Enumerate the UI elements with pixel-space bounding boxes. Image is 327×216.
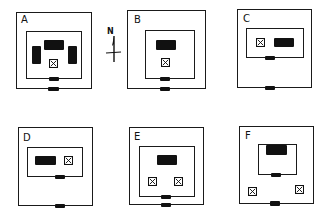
altar-icon-west bbox=[248, 187, 257, 196]
inner-gate bbox=[161, 195, 171, 199]
outer-gate bbox=[160, 87, 170, 91]
building-east bbox=[274, 38, 294, 47]
building-west bbox=[35, 156, 56, 165]
panel-label: F bbox=[245, 131, 251, 141]
outer-gate bbox=[265, 86, 275, 90]
panel-label: B bbox=[134, 15, 141, 25]
building-north bbox=[44, 40, 64, 50]
outer-gate bbox=[270, 201, 280, 206]
temple-plan-diagram: A N B C bbox=[0, 0, 327, 216]
altar-icon bbox=[256, 38, 265, 47]
inner-gate bbox=[55, 175, 65, 179]
outer-gate bbox=[55, 204, 65, 208]
panel-label: A bbox=[21, 15, 28, 25]
inner-gate bbox=[160, 77, 170, 81]
building-east bbox=[68, 46, 77, 64]
inner-gate bbox=[265, 56, 275, 60]
altar-icon-west bbox=[148, 177, 157, 186]
inner-court bbox=[139, 146, 195, 197]
outer-gate bbox=[161, 203, 171, 207]
inner-court bbox=[145, 30, 195, 79]
panel-label: C bbox=[243, 14, 250, 24]
altar-icon-east bbox=[174, 177, 183, 186]
building-north bbox=[157, 155, 177, 165]
building-west bbox=[32, 46, 41, 64]
north-arrow: N bbox=[102, 28, 122, 64]
altar-icon bbox=[49, 59, 58, 68]
north-arrow-icon bbox=[102, 32, 122, 66]
panel-label: D bbox=[23, 133, 31, 143]
altar-icon bbox=[64, 156, 73, 165]
building-north bbox=[156, 40, 176, 50]
altar-icon-east bbox=[295, 185, 304, 194]
altar-icon bbox=[161, 58, 170, 67]
inner-gate bbox=[271, 173, 281, 177]
panel-label: E bbox=[134, 132, 140, 142]
building-north bbox=[266, 145, 287, 155]
inner-gate bbox=[49, 77, 59, 81]
outer-gate bbox=[48, 87, 59, 91]
